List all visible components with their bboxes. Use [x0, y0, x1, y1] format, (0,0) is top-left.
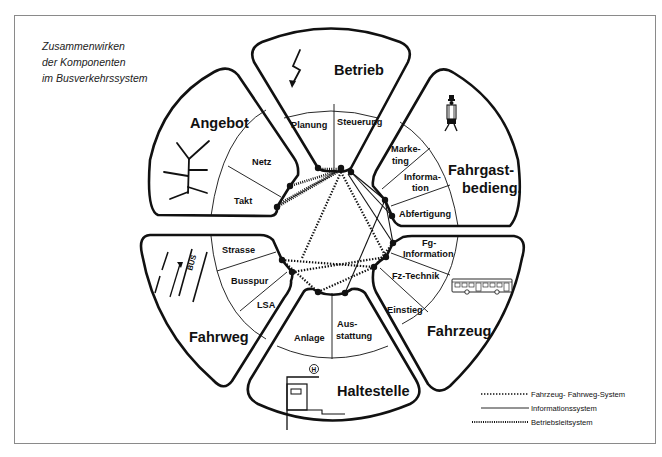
sub-label-information-line2: tion: [412, 183, 429, 193]
sub-label-busspur: Busspur: [231, 276, 269, 286]
sub-label-strasse: Strasse: [222, 245, 255, 255]
segment-label-angebot: Angebot: [190, 115, 249, 131]
segment-label-fahrweg: Fahrweg: [189, 329, 249, 345]
sub-label-fg-information-line1: Fg-: [422, 238, 436, 248]
sub-label-anlage: Anlage: [294, 333, 325, 343]
stop-symbol-h: H: [312, 366, 317, 373]
sub-label-fg-information-line2: Information: [403, 249, 454, 259]
legend: Fahrzeug- Fahrweg-System Informationssys…: [472, 390, 625, 427]
sub-label-fz-technik: Fz-Technik: [392, 271, 440, 281]
sub-label-lsa: LSA: [257, 300, 276, 310]
segment-label-haltestelle: Haltestelle: [337, 383, 410, 399]
sub-label-netz: Netz: [252, 157, 272, 167]
component-wheel-diagram: Betrieb Planung Steuerung Angebot Netz T…: [0, 0, 662, 457]
legend-label-informationssystem: Informationssystem: [531, 404, 597, 413]
legend-item-fahrzeug-fahrweg: Fahrzeug- Fahrweg-System: [481, 390, 625, 399]
sub-label-steuerung: Steuerung: [337, 117, 382, 127]
segment-label-fahrgast-line2: bedieng.: [462, 180, 522, 196]
sub-label-planung: Planung: [291, 120, 327, 130]
sub-label-ausstattung-line1: Aus-: [337, 319, 357, 329]
legend-label-betriebsleitsystem: Betriebsleitsystem: [531, 418, 593, 427]
sub-label-marketing-line1: Marke-: [391, 144, 421, 154]
sub-label-takt: Takt: [234, 196, 252, 206]
segment-label-betrieb: Betrieb: [334, 62, 384, 78]
sub-label-abfertigung: Abfertigung: [399, 209, 451, 219]
legend-item-betriebsleitsystem: Betriebsleitsystem: [472, 418, 593, 427]
legend-item-informationssystem: Informationssystem: [481, 404, 597, 413]
segment-fahrgastbedienung: Fahrgast- bedieng. Marke- ting Informa- …: [373, 69, 522, 226]
segment-label-fahrzeug: Fahrzeug: [427, 323, 491, 339]
segment-label-fahrgast-line1: Fahrgast-: [448, 162, 514, 178]
sub-label-marketing-line2: ting: [392, 156, 409, 166]
sub-label-einstieg: Einstieg: [387, 305, 423, 315]
bus-icon: [452, 279, 512, 294]
sub-label-ausstattung-line2: stattung: [336, 331, 372, 341]
sub-label-information-line1: Informa-: [404, 172, 441, 182]
legend-label-fahrzeug-fahrweg: Fahrzeug- Fahrweg-System: [531, 390, 625, 399]
